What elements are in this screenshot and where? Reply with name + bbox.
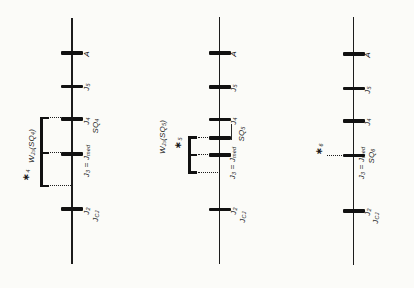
panel-left-tick-label-j3-jmed: J3 = Jmed — [82, 145, 91, 178]
panel-middle-sq-leader-line — [231, 124, 232, 140]
panel-middle-tick-j4 — [209, 118, 231, 122]
panel-left-tick-label-a: A — [83, 51, 91, 57]
panel-left-axis-line — [71, 18, 73, 264]
panel-left-dotted-leader-2 — [50, 185, 71, 186]
panel-right-tick-label-j4: J4 — [364, 118, 373, 125]
panel-middle-dotted-leader-1 — [198, 154, 209, 155]
panel-middle-tick-label-sq5: SQ5 — [238, 126, 247, 141]
panel-middle-dotted-leader-0 — [198, 137, 209, 138]
panel-left-dotted-leader-0 — [50, 117, 61, 118]
panel-middle-star-marker-5: ∗5 — [174, 137, 184, 148]
panel-left-tick-label-j2: J2 — [82, 207, 91, 214]
panel-middle-dotted-leader-2 — [198, 172, 219, 173]
panel-left-tick-a — [61, 51, 83, 55]
panel-left-tick-j5 — [61, 85, 83, 89]
panel-left-star-marker-4: ∗4 — [22, 169, 32, 180]
panel-middle-bracket-arm-0 — [190, 136, 198, 139]
panel-left-window-label-wj3-sq4: WJ3(SQ4) — [28, 129, 37, 163]
panel-middle-tick-label-a: A — [230, 51, 238, 57]
panel-middle-tick-j2 — [209, 208, 231, 212]
panel-right-tick-label-j3-jmed: J3 = Jmed — [358, 147, 367, 180]
panel-left-tick-label-j4: J4 — [82, 117, 91, 124]
panel-middle-tick-label-j3-jmed: J3 = Jmed — [228, 146, 237, 179]
panel-left-tick-j2 — [61, 207, 83, 211]
panel-right-tick-j2 — [343, 209, 365, 213]
panel-right-tick-a — [343, 52, 365, 56]
panel-right-tick-label-j5: J5 — [364, 86, 373, 93]
panel-middle-tick-label-j4: J4 — [230, 117, 239, 124]
panel-left-tick-label-sq4: SQ4 — [91, 118, 100, 133]
panel-middle-tick-label-j2: J2 — [230, 207, 239, 214]
panel-left-tick-label-j5: J5 — [82, 83, 91, 90]
panel-right-tick-label-jcj: JCJ — [372, 212, 381, 223]
panel-left-tick-j4-sq4 — [61, 117, 83, 121]
panel-right-tick-label-sq6: SQ6 — [367, 148, 376, 163]
panel-middle-tick-j3-jmed — [209, 153, 231, 157]
panel-left-dotted-leader-1 — [50, 152, 61, 153]
panel-right-tick-label-a: A — [364, 52, 372, 58]
panel-left-tick-label-jcj: JCJ — [91, 210, 100, 221]
panel-right-star-marker-6: ∗6 — [315, 143, 325, 154]
panel-middle-tick-label-j5: J5 — [230, 84, 239, 91]
panel-right-tick-j5 — [343, 87, 365, 91]
panel-middle-window-label-wj3-sq5: WJ3(SQ5) — [158, 120, 167, 154]
figure-canvas: AJ5J4SQ4J3 = JmedJ2JCJWJ3(SQ4)∗4AJ5J4SQ5… — [0, 0, 414, 288]
panel-middle-tick-label-jcj: JCJ — [239, 211, 248, 222]
panel-left-bracket-arm-2 — [42, 185, 50, 188]
panel-left-bracket-arm-1 — [42, 152, 50, 155]
panel-middle-tick-sq5 — [209, 136, 231, 140]
panel-middle-bracket-arm-2 — [190, 171, 198, 174]
panel-middle-bracket-arm-1 — [190, 154, 198, 157]
panel-right-tick-j4 — [343, 119, 365, 123]
panel-middle-tick-j5 — [209, 85, 231, 89]
panel-left-tick-j3-jmed — [61, 152, 83, 156]
panel-right-dotted-leader-0 — [327, 155, 343, 156]
panel-middle-tick-a — [209, 51, 231, 55]
panel-left-bracket-arm-0 — [42, 117, 50, 120]
